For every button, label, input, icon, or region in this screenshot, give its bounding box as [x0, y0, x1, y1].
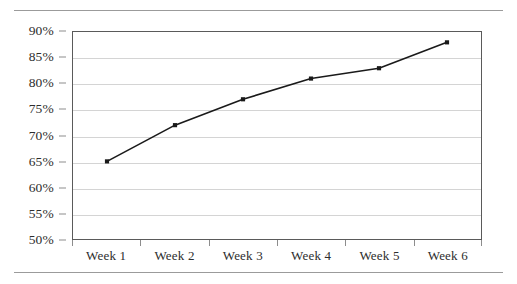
y-axis-tick-label: 50% — [29, 232, 54, 248]
x-axis-tick-mark — [140, 240, 141, 246]
x-axis: Week 1Week 2Week 3Week 4Week 5Week 6 — [72, 248, 482, 268]
x-axis-tick-label: Week 3 — [223, 248, 263, 264]
y-axis-tick-mark — [59, 135, 66, 136]
y-axis-tick-label: 60% — [29, 180, 54, 196]
x-axis-tick-mark — [209, 240, 210, 246]
y-axis-tick-mark — [59, 83, 66, 84]
plot-area — [72, 31, 482, 240]
data-point-marker — [445, 40, 449, 44]
series-line — [107, 42, 447, 161]
x-axis-tick-marks — [72, 240, 482, 247]
y-axis-tick-label: 80% — [29, 75, 54, 91]
data-point-marker — [309, 76, 313, 80]
data-point-marker — [377, 66, 381, 70]
y-axis: 90%85%80%75%70%65%60%55%50% — [0, 31, 66, 240]
top-divider-rule — [14, 10, 503, 11]
y-axis-tick-label: 65% — [29, 154, 54, 170]
x-axis-tick-mark — [481, 240, 482, 246]
y-axis-tick-mark — [59, 161, 66, 162]
y-axis-tick-mark — [59, 213, 66, 214]
y-axis-tick-label: 85% — [29, 49, 54, 65]
bottom-divider-rule — [14, 272, 503, 273]
y-axis-tick-label: 90% — [29, 23, 54, 39]
y-axis-tick-label: 75% — [29, 101, 54, 117]
x-axis-tick-mark — [414, 240, 415, 246]
x-axis-tick-label: Week 1 — [86, 248, 126, 264]
data-point-marker — [241, 97, 245, 101]
x-axis-tick-label: Week 5 — [359, 248, 399, 264]
y-axis-tick-label: 70% — [29, 128, 54, 144]
x-axis-tick-label: Week 4 — [291, 248, 331, 264]
x-axis-tick-label: Week 6 — [428, 248, 468, 264]
data-point-marker — [105, 159, 109, 163]
x-axis-tick-label: Week 2 — [154, 248, 194, 264]
y-axis-tick-label: 55% — [29, 206, 54, 222]
y-axis-tick-mark — [59, 109, 66, 110]
y-axis-tick-mark — [59, 31, 66, 32]
y-axis-tick-mark — [59, 57, 66, 58]
data-point-marker — [173, 123, 177, 127]
x-axis-tick-mark — [72, 240, 73, 246]
chart-figure: 90%85%80%75%70%65%60%55%50% Week 1Week 2… — [0, 0, 517, 284]
x-axis-tick-mark — [277, 240, 278, 246]
line-series — [73, 32, 481, 239]
y-axis-tick-mark — [59, 187, 66, 188]
x-axis-tick-mark — [345, 240, 346, 246]
y-axis-tick-mark — [59, 240, 66, 241]
